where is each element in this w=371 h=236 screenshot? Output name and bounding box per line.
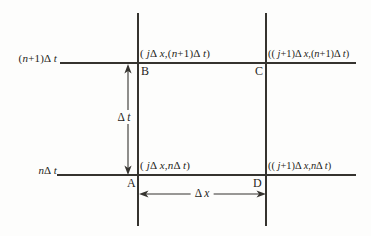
coord-label-point-c: (( j+1)Δ x,(n+1)Δ t): [268, 48, 349, 59]
coord-label-point-a: ( jΔ x,nΔ t): [140, 160, 190, 171]
delta-x-label: Δ x: [191, 186, 214, 200]
point-label-a: A: [127, 177, 136, 189]
axis-label-n-dt: nΔ t: [0, 165, 57, 176]
axis-label-n-plus-1-dt: (n+1)Δ t: [0, 53, 57, 64]
finite-difference-grid-figure: (n+1)Δ t nΔ t ( jΔ x,(n+1)Δ t) (( j+1)Δ …: [0, 0, 371, 236]
coord-label-point-d: (( j+1)Δ x,nΔ t): [268, 160, 331, 171]
delta-t-label: Δ t: [114, 110, 135, 124]
point-label-c: C: [255, 65, 263, 77]
coord-label-point-b: ( jΔ x,(n+1)Δ t): [140, 48, 210, 59]
point-label-b: B: [141, 65, 149, 77]
time-level-line-n: [57, 174, 356, 175]
time-level-line-n-plus-1: [60, 62, 356, 63]
